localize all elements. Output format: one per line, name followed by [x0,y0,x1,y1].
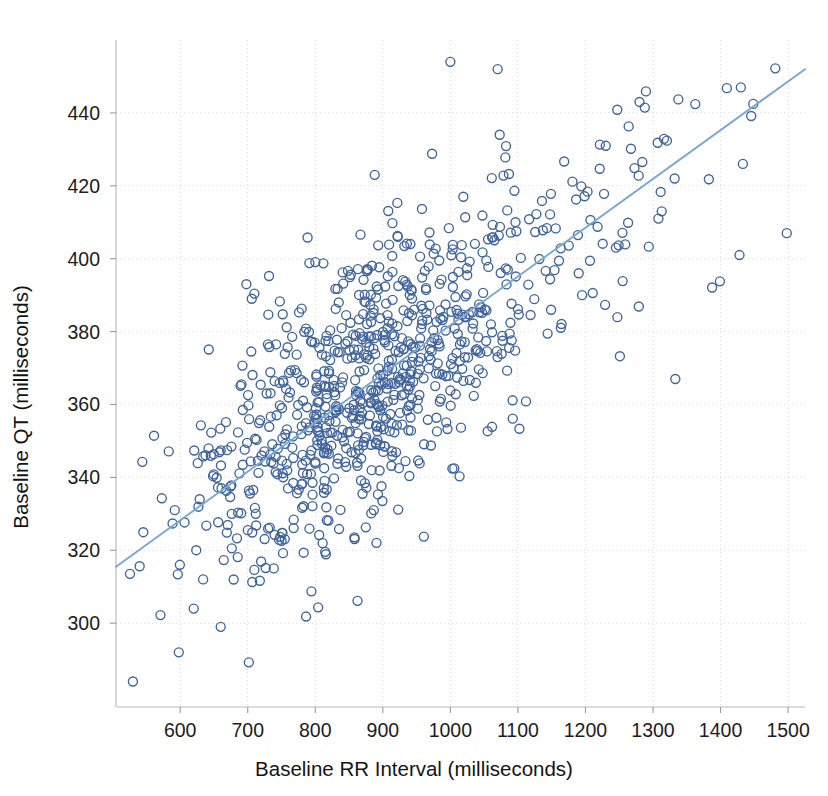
data-point-marker [479,288,488,297]
data-point-marker [234,428,243,437]
data-point-marker [256,416,265,425]
data-point-marker [275,297,284,306]
data-point-marker [330,346,339,355]
data-point-marker [495,130,504,139]
data-point-marker [282,323,291,332]
data-point-marker [374,241,383,250]
data-point-marker [431,382,440,391]
data-point-marker [516,253,525,262]
data-point-marker [372,538,381,547]
x-tick-label: 1300 [631,719,675,741]
data-point-marker [370,170,379,179]
data-point-marker [634,302,643,311]
data-point-marker [278,310,287,319]
data-point-marker [233,553,242,562]
data-point-marker [330,474,339,483]
data-point-marker [457,253,466,262]
data-point-marker [305,259,314,268]
data-point-marker [588,288,597,297]
data-point-marker [525,215,534,224]
data-point-marker [503,366,512,375]
y-tick-label: 300 [67,612,100,634]
data-point-marker [508,414,517,423]
data-point-marker [624,122,633,131]
data-point-marker [414,456,423,465]
data-point-marker [656,187,665,196]
data-point-marker [446,57,455,66]
data-point-marker [353,596,362,605]
data-point-marker [244,391,253,400]
data-point-marker [250,289,259,298]
data-point-marker [202,521,211,530]
data-point-marker [674,95,683,104]
data-point-marker [447,307,456,316]
data-point-marker [339,279,348,288]
data-point-marker [601,300,610,309]
y-tick-labels-group: 300320340360380400420440 [67,102,100,634]
data-point-marker [526,311,535,320]
data-point-marker [554,256,563,265]
data-point-marker [204,345,213,354]
data-point-marker [425,228,434,237]
data-point-marker [305,524,314,533]
data-point-marker [503,206,512,215]
data-point-marker [307,587,316,596]
data-point-marker [487,174,496,183]
data-point-marker [173,570,182,579]
data-point-marker [598,239,607,248]
data-point-marker [613,105,622,114]
data-point-marker [156,611,165,620]
data-point-marker [384,207,393,216]
data-point-marker [546,275,555,284]
data-point-marker [138,457,147,466]
data-point-marker [265,422,274,431]
data-point-marker [394,505,403,514]
data-point-marker [221,418,230,427]
data-point-marker [578,291,587,300]
data-point-marker [459,192,468,201]
data-point-marker [670,174,679,183]
plot-canvas: 600700800900100011001200130014001500 300… [0,0,828,796]
data-point-marker [356,230,365,239]
data-point-marker [244,658,253,667]
data-point-marker [416,252,425,261]
data-point-marker [219,556,228,565]
data-point-marker [199,575,208,584]
data-point-marker [493,65,502,74]
data-point-marker [288,443,297,452]
data-point-marker [560,157,569,166]
y-tick-label: 440 [67,102,100,124]
data-point-marker [530,295,539,304]
data-point-marker [551,224,560,233]
x-tick-label: 1500 [766,719,810,741]
data-point-marker [388,219,397,228]
data-point-marker [332,335,341,344]
data-point-marker [614,241,623,250]
data-point-marker [417,204,426,213]
data-point-marker [451,293,460,302]
data-point-marker [252,521,261,530]
data-point-marker [164,447,173,456]
data-point-marker [504,170,513,179]
data-point-marker [128,677,137,686]
x-tick-label: 1400 [699,719,743,741]
y-tick-label: 320 [67,539,100,561]
data-point-marker [135,562,144,571]
data-point-marker [351,376,360,385]
data-point-marker [229,575,238,584]
data-point-marker [260,535,269,544]
x-tick-label: 800 [299,719,332,741]
data-point-marker [435,256,444,265]
data-point-marker [238,361,247,370]
data-point-marker [264,310,273,319]
data-point-marker [635,97,644,106]
data-point-marker [433,359,442,368]
data-point-marker [543,329,552,338]
data-point-marker [546,189,555,198]
data-point-marker [691,100,700,109]
data-point-marker [299,378,308,387]
data-point-marker [432,427,441,436]
data-point-marker [640,103,649,112]
data-point-marker [125,569,134,578]
data-point-marker [190,446,199,455]
